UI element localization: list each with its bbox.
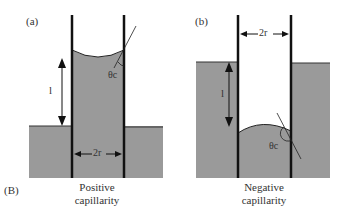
panel-b-caption-line1: Negative xyxy=(244,181,284,193)
panel-a-height-label: l xyxy=(49,84,52,96)
panel-a-arrow-up xyxy=(58,58,66,68)
panel-a-arrow-down xyxy=(58,116,66,126)
panel-a-angle-label: θc xyxy=(108,69,117,80)
panel-b-bath-right xyxy=(291,63,330,178)
panel-b-height-label: l xyxy=(221,87,224,99)
panel-b-column xyxy=(238,124,291,178)
panel-b-caption: Negative capillarity xyxy=(219,181,309,207)
panel-b-radius-label: 2r xyxy=(259,27,267,38)
panel-b-caption-line2: capillarity xyxy=(242,194,287,206)
panel-a-caption-line2: capillarity xyxy=(75,194,120,206)
panel-b-graphic xyxy=(196,15,330,178)
panel-a-radius-label: 2r xyxy=(93,147,101,158)
panel-b-label: (b) xyxy=(195,15,208,27)
panel-a-caption-line1: Positive xyxy=(79,181,114,193)
panel-b-angle-label: θc xyxy=(269,140,278,151)
panel-a-caption: Positive capillarity xyxy=(52,181,142,207)
panel-a-label: (a) xyxy=(26,15,38,27)
figure-label: (B) xyxy=(4,184,19,196)
